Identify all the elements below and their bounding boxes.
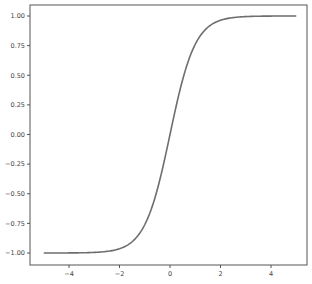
x-tick-label: 0 [168,270,172,278]
x-tick-label: −2 [115,270,125,278]
x-tick-label: −4 [64,270,74,278]
y-tick-label: −0.25 [5,160,25,168]
tanh-line-chart: −1.00−0.75−0.50−0.250.000.250.500.751.00… [0,0,312,284]
y-tick-label: −0.50 [5,190,25,198]
y-tick-label: 0.00 [11,131,25,139]
tanh-series-line [44,16,297,253]
y-tick-label: 0.50 [11,72,25,80]
y-axis: −1.00−0.75−0.50−0.250.000.250.500.751.00 [5,12,30,257]
y-tick-label: 0.75 [11,42,25,50]
y-tick-label: −0.75 [5,220,25,228]
plot-area [44,16,297,253]
x-tick-label: 4 [269,270,273,278]
x-tick-label: 2 [218,270,222,278]
x-axis: −4−2024 [64,265,273,278]
y-tick-label: −1.00 [5,249,25,257]
y-tick-label: 1.00 [11,12,25,20]
plot-frame [30,5,307,265]
y-tick-label: 0.25 [11,101,25,109]
